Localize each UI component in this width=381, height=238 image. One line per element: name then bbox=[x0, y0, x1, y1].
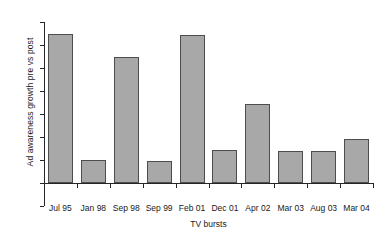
bar bbox=[48, 34, 73, 184]
bar bbox=[311, 151, 336, 183]
x-axis-tick-label: Jan 98 bbox=[77, 203, 110, 213]
x-axis-tick-label: Aug 03 bbox=[307, 203, 340, 213]
x-axis-tick-label: Mar 04 bbox=[340, 203, 373, 213]
x-axis-tick bbox=[241, 183, 242, 188]
y-axis-tick bbox=[40, 45, 44, 46]
bar bbox=[114, 57, 139, 184]
x-axis-tick bbox=[340, 183, 341, 188]
x-axis-tick bbox=[77, 183, 78, 188]
x-axis-tick-label: Jul 95 bbox=[44, 203, 77, 213]
x-axis-tick bbox=[110, 183, 111, 188]
y-axis-tick bbox=[40, 22, 44, 23]
x-axis-tick-label: Apr 02 bbox=[241, 203, 274, 213]
y-axis-line bbox=[44, 22, 45, 206]
x-axis-tick bbox=[44, 183, 45, 188]
y-axis-tick bbox=[40, 137, 44, 138]
bar bbox=[147, 161, 172, 183]
x-axis-tick bbox=[209, 183, 210, 188]
x-axis-tick bbox=[143, 183, 144, 188]
plot-area bbox=[44, 22, 373, 206]
x-axis-title: TV bursts bbox=[44, 219, 373, 229]
bar bbox=[180, 35, 205, 183]
y-axis-tick bbox=[40, 68, 44, 69]
y-axis-title: Ad awareness growth pre vs post bbox=[25, 7, 35, 197]
y-axis-tick bbox=[40, 91, 44, 92]
bar bbox=[245, 104, 270, 183]
x-axis-tick bbox=[176, 183, 177, 188]
y-axis-tick bbox=[40, 160, 44, 161]
bar-chart: Ad awareness growth pre vs post 14121086… bbox=[0, 0, 381, 238]
x-axis-tick-label: Mar 03 bbox=[274, 203, 307, 213]
x-axis-tick bbox=[274, 183, 275, 188]
x-axis-tick bbox=[307, 183, 308, 188]
x-axis-tick-labels: Jul 95Jan 98Sep 98Sep 99Feb 01Dec 01Apr … bbox=[44, 203, 373, 217]
y-axis-tick bbox=[40, 114, 44, 115]
bar bbox=[344, 139, 369, 183]
x-axis-tick bbox=[373, 183, 374, 188]
x-axis-tick-label: Sep 98 bbox=[110, 203, 143, 213]
x-axis-tick-label: Dec 01 bbox=[209, 203, 242, 213]
x-axis-tick-label: Sep 99 bbox=[143, 203, 176, 213]
bar bbox=[81, 160, 106, 183]
x-axis-tick-label: Feb 01 bbox=[176, 203, 209, 213]
bar bbox=[278, 151, 303, 183]
bar bbox=[212, 150, 237, 183]
